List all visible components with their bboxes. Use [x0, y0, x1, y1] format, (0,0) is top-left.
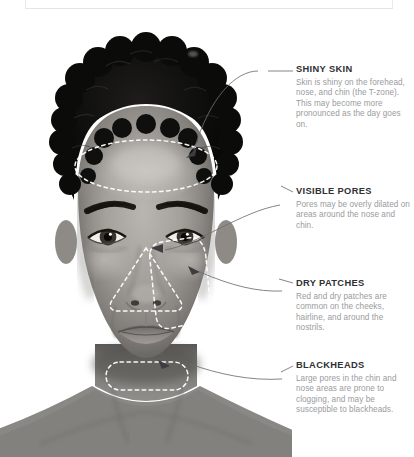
leader-lines: [0, 0, 414, 457]
